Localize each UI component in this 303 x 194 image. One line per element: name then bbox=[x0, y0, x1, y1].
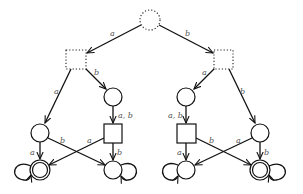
label-R-Rin: a bbox=[202, 68, 207, 77]
node-L-in bbox=[104, 88, 122, 106]
label-Lc-Lacc: a bbox=[30, 148, 35, 157]
edges bbox=[15, 25, 286, 180]
node-L-acc-inner bbox=[33, 163, 48, 178]
node-L-sq bbox=[104, 124, 122, 143]
label-Lin-Lsq: a, b bbox=[118, 111, 133, 120]
node-L-c bbox=[31, 124, 49, 142]
label-Rc-Rbot: a bbox=[236, 136, 241, 145]
label-L-Lc: a bbox=[54, 87, 59, 96]
node-L bbox=[66, 50, 86, 69]
label-L-Lin: b bbox=[94, 68, 99, 77]
node-R-acc-inner bbox=[253, 163, 268, 178]
nodes bbox=[30, 10, 270, 180]
node-R-sq bbox=[177, 124, 196, 143]
automaton-diagram: a b a b a b a, b a, b a b a b a b a b bbox=[0, 0, 303, 194]
label-root-R: b bbox=[185, 29, 190, 38]
label-Rsq-Racc: b bbox=[209, 136, 214, 145]
label-Lsq-Lacc: a bbox=[87, 136, 92, 145]
node-R bbox=[214, 50, 233, 69]
edge-R-Rc bbox=[229, 69, 255, 123]
node-L-bot bbox=[104, 161, 122, 179]
loop-Rbot bbox=[163, 164, 178, 181]
label-Rc-Racc: b bbox=[264, 148, 269, 157]
loop-Lbot bbox=[121, 164, 136, 181]
edge-labels: a b a b a b a, b a, b a b a b a b a b bbox=[30, 29, 269, 157]
node-R-in bbox=[177, 88, 195, 106]
loop-Racc bbox=[269, 164, 285, 180]
node-R-c bbox=[251, 124, 269, 142]
label-Lc-Lbot: b bbox=[60, 136, 65, 145]
loop-Lacc bbox=[15, 164, 31, 180]
edge-L-Lc bbox=[45, 69, 71, 123]
node-root bbox=[140, 10, 160, 30]
label-Rin-Rsq: a, b bbox=[168, 111, 183, 120]
node-R-bot bbox=[177, 161, 195, 179]
label-Lsq-Lbot: b bbox=[117, 148, 122, 157]
label-Rsq-Rbot: a bbox=[177, 148, 182, 157]
label-R-Rc: b bbox=[240, 87, 245, 96]
label-root-L: a bbox=[110, 29, 115, 38]
